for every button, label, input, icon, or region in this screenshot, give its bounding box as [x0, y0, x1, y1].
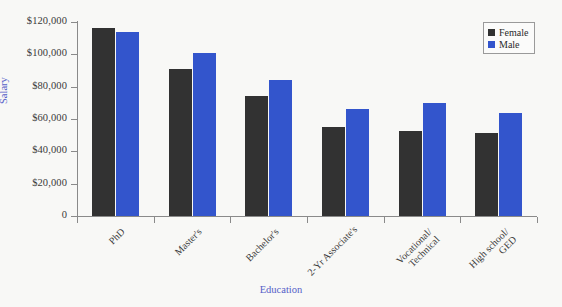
- bar-female-5: [475, 133, 498, 216]
- y-tick-label: $20,000: [0, 177, 67, 188]
- x-tick-label: Master's: [152, 226, 204, 278]
- bar-chart: 0$20,000$40,000$60,000$80,000$100,000$12…: [0, 0, 562, 307]
- legend-item-male: Male: [488, 38, 528, 50]
- y-tick-label: $80,000: [0, 80, 67, 91]
- x-tick-label: High school/ GED: [459, 226, 518, 285]
- x-tick-mark: [384, 217, 385, 223]
- x-tick-mark: [230, 217, 231, 223]
- legend: FemaleMale: [483, 22, 535, 54]
- y-tick-label: 0: [0, 209, 67, 220]
- legend-item-female: Female: [488, 26, 528, 38]
- bar-female-1: [169, 69, 192, 216]
- bar-female-4: [399, 131, 422, 216]
- x-tick-mark: [460, 217, 461, 223]
- x-tick-mark: [77, 217, 78, 223]
- x-tick-label: PhD: [75, 226, 127, 278]
- bar-male-1: [193, 53, 216, 216]
- bar-female-3: [322, 127, 345, 216]
- x-tick-mark: [307, 217, 308, 223]
- legend-swatch-icon: [488, 29, 495, 36]
- y-tick-label: $40,000: [0, 144, 67, 155]
- bar-male-0: [116, 32, 139, 216]
- x-tick-mark: [154, 217, 155, 223]
- legend-swatch-icon: [488, 41, 495, 48]
- bar-male-3: [346, 109, 369, 216]
- y-tick-label: $100,000: [0, 47, 67, 58]
- y-tick-label: $60,000: [0, 112, 67, 123]
- legend-label: Female: [499, 27, 528, 38]
- x-axis-title: Education: [0, 284, 562, 295]
- bar-female-0: [92, 28, 115, 216]
- x-tick-label: Vocational/ Technical: [382, 226, 441, 285]
- legend-label: Male: [499, 39, 520, 50]
- bar-male-4: [423, 103, 446, 216]
- x-tick-mark: [537, 217, 538, 223]
- x-tick-label: 2-Yr Associate's: [305, 226, 357, 278]
- plot-area: [77, 22, 537, 216]
- y-axis-title: Salary: [0, 77, 9, 104]
- y-tick-label: $120,000: [0, 15, 67, 26]
- bar-male-2: [269, 80, 292, 216]
- x-tick-label: Bachelor's: [229, 226, 281, 278]
- bar-male-5: [499, 113, 522, 216]
- bar-female-2: [245, 96, 268, 216]
